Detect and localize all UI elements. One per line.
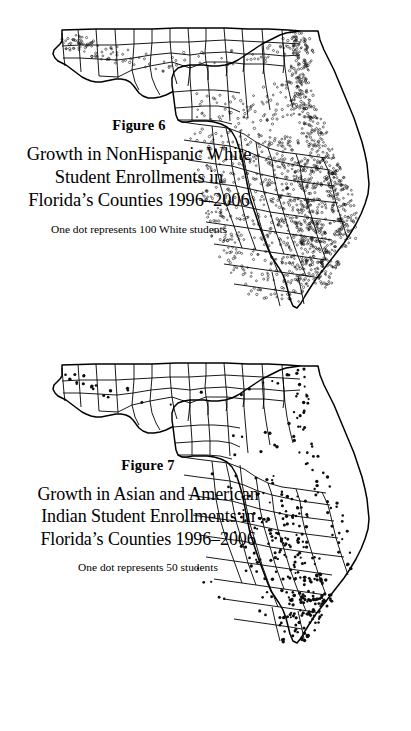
figure-7-title: Growth in Asian and American Indian Stud… xyxy=(14,483,282,550)
figure-7-legend-caption: One dot represents 50 students xyxy=(14,561,282,575)
figure-6-legend-caption: One dot represents 100 White students xyxy=(8,223,270,237)
figure-6-title: Growth in NonHispanic White Student Enro… xyxy=(8,143,270,212)
figure-6-caption: Figure 6 Growth in NonHispanic White Stu… xyxy=(8,118,270,236)
figure-7: Figure 7 Growth in Asian and American In… xyxy=(0,335,411,731)
figure-7-caption: Figure 7 Growth in Asian and American In… xyxy=(14,458,282,575)
figure-6: Figure 6 Growth in NonHispanic White Stu… xyxy=(0,0,411,366)
figure-6-number: Figure 6 xyxy=(8,118,270,134)
figure-7-number: Figure 7 xyxy=(14,458,282,474)
